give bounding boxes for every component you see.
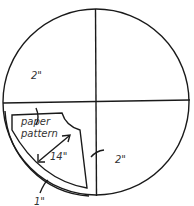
dimension-label: 14" [50, 151, 67, 162]
right-margin-label: 2" [115, 154, 126, 165]
pattern-label-line1: paper [20, 116, 51, 127]
vertical-divider [96, 9, 97, 196]
right-margin-leader [91, 150, 104, 157]
circle-pattern-diagram: 2" paper pattern 14" 2" 1" [0, 0, 194, 206]
bottom-margin-leader [40, 180, 48, 193]
bottom-margin-label: 1" [34, 196, 45, 206]
pattern-label-line2: pattern [20, 128, 58, 139]
top-margin-label: 2" [31, 70, 42, 81]
